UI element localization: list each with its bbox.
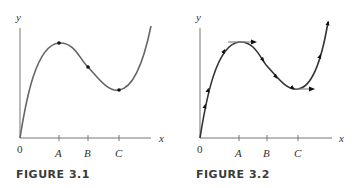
y-label: y — [195, 11, 201, 23]
curve — [200, 22, 328, 138]
origin-label: 0 — [17, 143, 23, 155]
figures-canvas: y x 0 A B C y x 0 A B C — [0, 0, 359, 188]
point-a — [57, 41, 61, 45]
tick-label-a: A — [234, 147, 242, 159]
tick-label-c: C — [115, 147, 123, 159]
tick-label-a: A — [54, 147, 62, 159]
point-c — [117, 88, 121, 92]
tick-label-b: B — [84, 147, 91, 159]
figure-3-2-caption: FIGURE 3.2 — [196, 168, 270, 181]
origin-label: 0 — [197, 143, 203, 155]
curve — [20, 26, 151, 138]
y-label: y — [15, 11, 21, 23]
x-label: x — [338, 132, 344, 144]
x-label: x — [158, 132, 164, 144]
figure-3-1-caption: FIGURE 3.1 — [16, 168, 90, 181]
point-b — [86, 65, 90, 69]
tick-label-c: C — [294, 147, 302, 159]
tick-label-b: B — [263, 147, 270, 159]
figure-3-2: y x 0 A B C — [195, 11, 344, 159]
figure-3-1: y x 0 A B C — [15, 11, 164, 159]
